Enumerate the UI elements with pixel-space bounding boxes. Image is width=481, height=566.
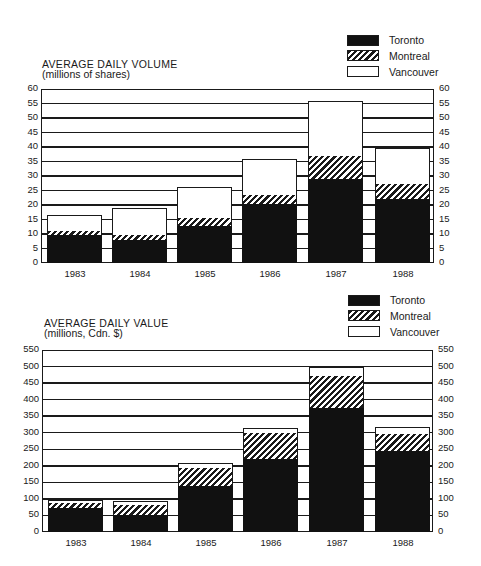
y-tick-right: 550 [438, 344, 468, 354]
y-tick-left: 200 [9, 460, 39, 470]
segment-vancouver [308, 101, 363, 158]
y-tick-right: 10 [439, 228, 469, 238]
segment-montreal [178, 468, 233, 486]
y-tick-right: 15 [439, 214, 469, 224]
legend-swatch-vancouver [347, 66, 379, 77]
segment-toronto [308, 179, 363, 263]
y-tick-right: 450 [438, 377, 468, 387]
y-tick-right: 0 [438, 526, 468, 536]
y-tick-right: 40 [439, 141, 469, 151]
y-tick-left: 20 [8, 199, 38, 209]
y-tick-right: 30 [439, 170, 469, 180]
y-tick-left: 350 [9, 410, 39, 420]
legend-swatch-montreal [347, 50, 379, 61]
segment-toronto [178, 486, 233, 532]
y-tick-left: 500 [9, 361, 39, 371]
y-tick-right: 35 [439, 156, 469, 166]
segment-montreal [243, 433, 298, 458]
segment-montreal [309, 376, 364, 407]
y-tick-right: 150 [438, 476, 468, 486]
gridline [42, 415, 433, 416]
segment-vancouver [47, 215, 102, 232]
y-tick-right: 60 [439, 83, 469, 93]
bar-1985 [178, 463, 233, 532]
bar-1987 [308, 101, 363, 263]
y-tick-left: 55 [8, 98, 38, 108]
y-tick-left: 50 [8, 112, 38, 122]
x-tick-label: 1988 [375, 268, 431, 279]
y-tick-left: 30 [8, 170, 38, 180]
y-tick-right: 45 [439, 127, 469, 137]
segment-toronto [309, 408, 364, 532]
y-tick-left: 150 [9, 476, 39, 486]
gridline [42, 399, 433, 400]
segment-toronto [47, 235, 102, 263]
y-tick-left: 0 [8, 257, 38, 267]
x-tick-label: 1986 [242, 268, 298, 279]
y-tick-left: 50 [9, 509, 39, 519]
segment-toronto [375, 451, 430, 532]
segment-toronto [375, 199, 430, 263]
bar-1988 [375, 148, 430, 263]
y-tick-left: 40 [8, 141, 38, 151]
y-tick-right: 0 [439, 257, 469, 267]
bar-1986 [243, 428, 298, 532]
segment-toronto [112, 240, 167, 263]
y-tick-left: 25 [8, 185, 38, 195]
y-tick-right: 400 [438, 394, 468, 404]
y-tick-right: 25 [439, 185, 469, 195]
y-tick-right: 5 [439, 243, 469, 253]
y-tick-right: 200 [438, 460, 468, 470]
legend-swatch-toronto [348, 295, 380, 306]
y-tick-left: 5 [8, 243, 38, 253]
segment-vancouver [375, 148, 430, 186]
bar-1988 [375, 427, 430, 532]
x-tick-label: 1987 [309, 537, 365, 548]
legend-label-montreal: Montreal [389, 50, 430, 62]
segment-toronto [243, 459, 298, 532]
y-tick-left: 400 [9, 394, 39, 404]
legend-label-montreal: Montreal [390, 310, 431, 322]
y-tick-right: 300 [438, 427, 468, 437]
x-tick-label: 1985 [177, 268, 233, 279]
gridline [41, 103, 434, 104]
segment-toronto [177, 226, 232, 263]
gridline [42, 366, 433, 367]
y-tick-left: 15 [8, 214, 38, 224]
segment-montreal [242, 195, 297, 204]
x-tick-label: 1983 [47, 268, 103, 279]
segment-toronto [48, 508, 103, 532]
y-tick-left: 300 [9, 427, 39, 437]
bar-1986 [242, 159, 297, 263]
segment-vancouver [177, 187, 232, 220]
y-tick-right: 350 [438, 410, 468, 420]
x-tick-label: 1984 [112, 268, 168, 279]
legend-label-toronto: Toronto [390, 294, 425, 306]
bar-1984 [113, 501, 168, 532]
x-tick-label: 1983 [48, 537, 104, 548]
segment-toronto [113, 515, 168, 532]
x-tick-label: 1984 [113, 537, 169, 548]
y-tick-left: 10 [8, 228, 38, 238]
gridline [41, 132, 434, 133]
segment-montreal [375, 184, 430, 199]
y-tick-right: 55 [439, 98, 469, 108]
y-tick-left: 45 [8, 127, 38, 137]
chart-subtitle: (millions, Cdn. $) [44, 328, 123, 338]
legend-swatch-montreal [348, 310, 380, 321]
y-tick-left: 450 [9, 377, 39, 387]
segment-montreal [375, 434, 430, 451]
y-tick-left: 100 [9, 493, 39, 503]
y-tick-right: 20 [439, 199, 469, 209]
gridline [42, 382, 433, 383]
legend-swatch-vancouver [348, 326, 380, 337]
y-tick-left: 60 [8, 83, 38, 93]
y-tick-right: 100 [438, 493, 468, 503]
y-tick-right: 250 [438, 443, 468, 453]
x-tick-label: 1985 [178, 537, 234, 548]
chart-subtitle: (millions of shares) [42, 69, 130, 79]
y-tick-right: 50 [439, 112, 469, 122]
gridline [41, 117, 434, 118]
y-tick-right: 50 [438, 509, 468, 519]
value-chart: Toronto Montreal Vancouver AVERAGE DAILY… [0, 280, 481, 566]
